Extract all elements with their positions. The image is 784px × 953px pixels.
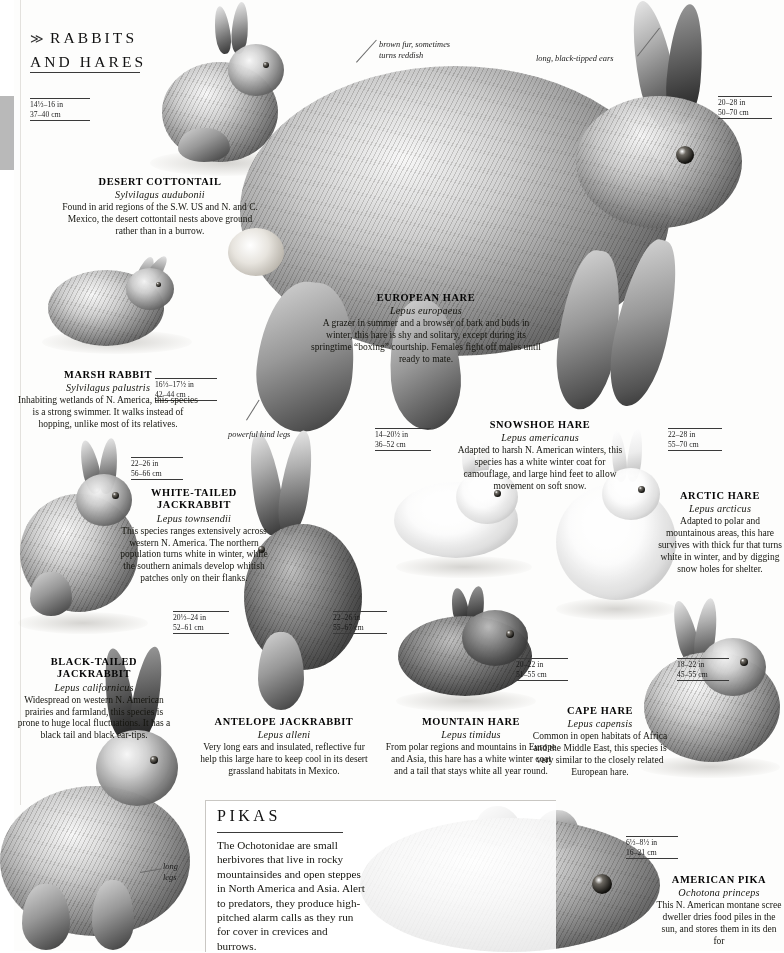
caption-european-hare: EUROPEAN HARE Lepus europaeus A grazer i… bbox=[311, 292, 541, 366]
leader-line-hind-legs bbox=[246, 400, 260, 421]
leader-line-brown-fur bbox=[356, 40, 377, 63]
measure-desert-cottontail: 14½–16 in 37–40 cm bbox=[30, 98, 90, 121]
species-description: Inhabiting wetlands of N. America, this … bbox=[18, 395, 198, 430]
caption-white-tailed-jackrabbit: WHITE-TAILED JACKRABBIT Lepus townsendii… bbox=[118, 487, 270, 585]
measure-inches: 22–26 in bbox=[131, 459, 183, 469]
annotation-long-black-tipped-ears: long, black-tipped ears bbox=[536, 54, 646, 65]
measure-inches: 18–22 in bbox=[677, 660, 729, 670]
species-scientific-name: Sylvilagus palustris bbox=[18, 381, 198, 394]
measure-cm: 37–40 cm bbox=[30, 110, 90, 120]
species-name: DESERT COTTONTAIL bbox=[62, 176, 258, 188]
species-name: CAPE HARE bbox=[530, 705, 670, 717]
measure-cm: 36–52 cm bbox=[375, 440, 431, 450]
species-name: BLACK-TAILED JACKRABBIT bbox=[14, 656, 174, 681]
annotation-powerful-hind-legs: powerful hind legs bbox=[228, 430, 328, 441]
measure-cm: 51–55 cm bbox=[516, 670, 568, 680]
species-description: This species ranges extensively across w… bbox=[118, 526, 270, 585]
species-description: Widespread on western N. American prairi… bbox=[14, 695, 174, 742]
caption-desert-cottontail: DESERT COTTONTAIL Sylvilagus audubonii F… bbox=[62, 176, 258, 238]
species-scientific-name: Lepus americanus bbox=[452, 431, 628, 444]
measure-arctic-hare: 22–28 in 55–70 cm bbox=[668, 428, 722, 451]
species-name: SNOWSHOE HARE bbox=[452, 419, 628, 431]
section-title-line1: RABBITS bbox=[50, 29, 137, 46]
measure-inches: 14½–16 in bbox=[30, 100, 90, 110]
section-title-rabbits: ≫RABBITS AND HARES bbox=[30, 26, 180, 73]
annotation-line2: turns reddish bbox=[379, 51, 423, 60]
species-scientific-name: Lepus californicus bbox=[14, 681, 174, 694]
species-scientific-name: Lepus europaeus bbox=[311, 304, 541, 317]
caption-marsh-rabbit: MARSH RABBIT Sylvilagus palustris Inhabi… bbox=[18, 369, 198, 431]
annotation-line1: long bbox=[163, 862, 178, 871]
measure-inches: 20–28 in bbox=[718, 98, 772, 108]
species-scientific-name: Lepus townsendii bbox=[118, 512, 270, 525]
section-title-pikas: PIKAS bbox=[217, 807, 281, 825]
measure-cape-hare: 18–22 in 45–55 cm bbox=[677, 658, 729, 681]
species-description: Found in arid regions of the S.W. US and… bbox=[62, 202, 258, 237]
measure-inches: 6½–8½ in bbox=[626, 838, 678, 848]
species-scientific-name: Lepus capensis bbox=[530, 717, 670, 730]
measure-cm: 16–21 cm bbox=[626, 848, 678, 858]
chevron-right-icon: ≫ bbox=[30, 31, 44, 46]
caption-american-pika: AMERICAN PIKA Ochotona princeps This N. … bbox=[656, 874, 782, 948]
measure-european-hare: 20–28 in 50–70 cm bbox=[718, 96, 772, 119]
measure-cm: 55–67 cm bbox=[333, 623, 387, 633]
caption-snowshoe-hare: SNOWSHOE HARE Lepus americanus Adapted t… bbox=[452, 419, 628, 493]
species-scientific-name: Lepus alleni bbox=[195, 728, 373, 741]
caption-antelope-jackrabbit: ANTELOPE JACKRABBIT Lepus alleni Very lo… bbox=[195, 716, 373, 778]
annotation-line1: long, black-tipped ears bbox=[536, 54, 613, 63]
species-description: Very long ears and insulated, reflective… bbox=[195, 742, 373, 777]
caption-arctic-hare: ARCTIC HARE Lepus arcticus Adapted to po… bbox=[658, 490, 782, 575]
measure-inches: 20–22 in bbox=[516, 660, 568, 670]
annotation-line1: brown fur, sometimes bbox=[379, 40, 450, 49]
annotation-line1: powerful hind legs bbox=[228, 430, 290, 439]
caption-cape-hare: CAPE HARE Lepus capensis Common in open … bbox=[530, 705, 670, 779]
species-description: This N. American montane scree dweller d… bbox=[656, 900, 782, 947]
measure-antelope-jackrabbit: 22–26 in 55–67 cm bbox=[333, 611, 387, 634]
species-description: A grazer in summer and a browser of bark… bbox=[311, 318, 541, 365]
species-name: MARSH RABBIT bbox=[18, 369, 198, 381]
pikas-body-text: The Ochotonidae are small herbivores tha… bbox=[217, 838, 365, 953]
measure-american-pika: 6½–8½ in 16–21 cm bbox=[626, 836, 678, 859]
measure-white-tailed-jackrabbit: 22–26 in 56–66 cm bbox=[131, 457, 183, 480]
measure-inches: 20½–24 in bbox=[173, 613, 229, 623]
measure-snowshoe-hare: 14–20½ in 36–52 cm bbox=[375, 428, 431, 451]
species-scientific-name: Sylvilagus audubonii bbox=[62, 188, 258, 201]
measure-inches: 14–20½ in bbox=[375, 430, 431, 440]
page-margin-tab bbox=[0, 96, 14, 170]
measure-cm: 45–55 cm bbox=[677, 670, 729, 680]
measure-cm: 55–70 cm bbox=[668, 440, 722, 450]
species-scientific-name: Ochotona princeps bbox=[656, 886, 782, 899]
section-rule-rabbits bbox=[30, 72, 140, 73]
measure-black-tailed-jackrabbit: 20½–24 in 52–61 cm bbox=[173, 611, 229, 634]
measure-cm: 50–70 cm bbox=[718, 108, 772, 118]
species-name: ANTELOPE JACKRABBIT bbox=[195, 716, 373, 728]
annotation-line2: legs bbox=[163, 873, 177, 882]
measure-inches: 22–26 in bbox=[333, 613, 387, 623]
measure-inches: 22–28 in bbox=[668, 430, 722, 440]
species-description: Common in open habitats of Africa and th… bbox=[530, 731, 670, 778]
species-name: ARCTIC HARE bbox=[658, 490, 782, 502]
species-name: EUROPEAN HARE bbox=[311, 292, 541, 304]
measure-mountain-hare: 20–22 in 51–55 cm bbox=[516, 658, 568, 681]
caption-black-tailed-jackrabbit: BLACK-TAILED JACKRABBIT Lepus californic… bbox=[14, 656, 174, 742]
species-scientific-name: Lepus arcticus bbox=[658, 502, 782, 515]
annotation-brown-fur: brown fur, sometimes turns reddish bbox=[379, 40, 499, 61]
section-rule-pikas bbox=[217, 832, 343, 833]
annotation-long-legs: long legs bbox=[163, 862, 197, 883]
species-description: Adapted to harsh N. American winters, th… bbox=[452, 445, 628, 492]
section-title-line2: AND HARES bbox=[30, 53, 146, 70]
species-description: Adapted to polar and mountainous areas, … bbox=[658, 516, 782, 575]
measure-cm: 52–61 cm bbox=[173, 623, 229, 633]
species-name: WHITE-TAILED JACKRABBIT bbox=[118, 487, 270, 512]
measure-cm: 56–66 cm bbox=[131, 469, 183, 479]
species-name: AMERICAN PIKA bbox=[656, 874, 782, 886]
